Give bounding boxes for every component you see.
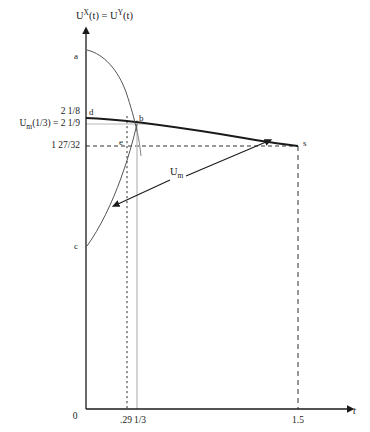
um-arrow-right <box>186 142 266 176</box>
point-label-d: d <box>89 108 94 117</box>
plot-svg <box>0 0 370 432</box>
x-tick-label-0: 0 <box>68 412 82 422</box>
y-tick-label-1-27-32: 1 27/32 <box>26 141 80 151</box>
curve-rising-c-b <box>87 124 137 246</box>
um-annotation-label: Um <box>170 167 183 180</box>
point-label-b: b <box>139 114 144 123</box>
point-label-a: a <box>74 52 78 61</box>
um-arrow-left <box>118 180 170 204</box>
y-axis-title-text: UX(t) = UY(t) <box>76 10 133 21</box>
figure-container: UX(t) = UY(t) 2 1/8 Um(1/3) = 2 1/9 1 27… <box>0 0 370 432</box>
y-axis-title: UX(t) = UY(t) <box>76 8 133 21</box>
curve-um-mediator <box>86 118 298 146</box>
point-label-c: c <box>74 242 78 251</box>
x-axis-title: t <box>353 406 356 416</box>
point-label-s: s <box>303 139 307 148</box>
y-tick-label-2-1-8: 2 1/8 <box>30 107 80 117</box>
x-tick-label-one-third: 1/3 <box>126 416 154 426</box>
x-tick-label-15: 1.5 <box>285 416 311 426</box>
y-tick-label-um-third: Um(1/3) = 2 1/9 <box>0 119 80 130</box>
point-label-e: e <box>119 138 123 147</box>
